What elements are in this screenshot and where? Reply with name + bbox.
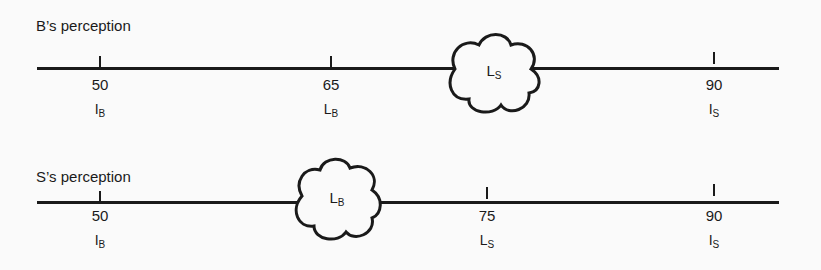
cloud-label: LS [486, 62, 501, 81]
cloud-label: LB [329, 189, 344, 208]
tick-label: IS [709, 101, 720, 119]
number-line [37, 67, 779, 70]
tick-mark [330, 56, 332, 68]
s-perception-diagram: S’s perception 50 IB 75 LS 90 IS LB [0, 135, 821, 270]
tick-label: LB [324, 101, 338, 119]
tick-label: IB [95, 101, 106, 119]
tick-label: IS [709, 232, 720, 250]
tick-mark [713, 52, 715, 64]
tick-mark [713, 184, 715, 196]
b-perception-diagram: B’s perception 50 IB 65 LB 90 IS LS [0, 0, 821, 135]
tick-value: 50 [92, 207, 109, 224]
tick-value: 90 [706, 207, 723, 224]
tick-mark [99, 191, 101, 203]
tick-value: 90 [706, 76, 723, 93]
tick-value: 65 [323, 76, 340, 93]
diagram-title: B’s perception [36, 17, 131, 34]
number-line [37, 201, 779, 204]
tick-mark [99, 56, 101, 68]
tick-label: LS [480, 232, 494, 250]
tick-label: IB [95, 232, 106, 250]
tick-value: 75 [479, 207, 496, 224]
tick-value: 50 [92, 76, 109, 93]
diagram-title: S’s perception [36, 168, 131, 185]
tick-mark [486, 187, 488, 199]
